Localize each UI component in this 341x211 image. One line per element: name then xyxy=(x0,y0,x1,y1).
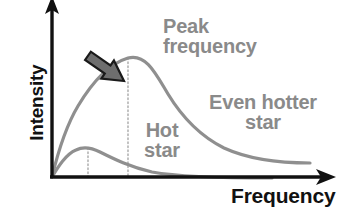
x-axis-label: Frequency xyxy=(231,185,335,206)
peak-frequency-annotation: Peakfrequency xyxy=(163,16,257,57)
peak-frequency-line1: Peak xyxy=(163,15,209,37)
hot-star-annotation: Hotstar xyxy=(138,120,186,161)
hot-star-line1: Hot xyxy=(146,119,179,141)
hot-star-line2: star xyxy=(144,139,180,161)
peak-frequency-line2: frequency xyxy=(163,35,257,57)
even-hotter-star-annotation: Even hotterstar xyxy=(202,92,324,133)
figure-canvas: Peakfrequency Even hotterstar Hotstar In… xyxy=(0,0,341,211)
even-hotter-star-line1: Even hotter xyxy=(209,91,317,113)
peak-frequency-arrow xyxy=(82,47,131,90)
even-hotter-star-line2: star xyxy=(245,111,281,133)
y-axis-label: Intensity xyxy=(27,43,46,163)
